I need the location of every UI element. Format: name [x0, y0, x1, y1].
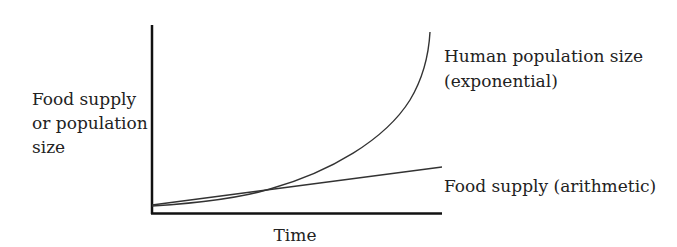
population-series-label: Human population size (exponential) [444, 46, 648, 91]
population-curve [152, 32, 430, 206]
x-axis-label: Time [274, 225, 317, 245]
y-axis-label: Food supply or population size [32, 89, 153, 157]
food-supply-series-label: Food supply (arithmetic) [444, 176, 656, 196]
food-supply-line [152, 167, 442, 205]
chart-canvas: Food supply or population size Time Huma… [0, 0, 677, 247]
